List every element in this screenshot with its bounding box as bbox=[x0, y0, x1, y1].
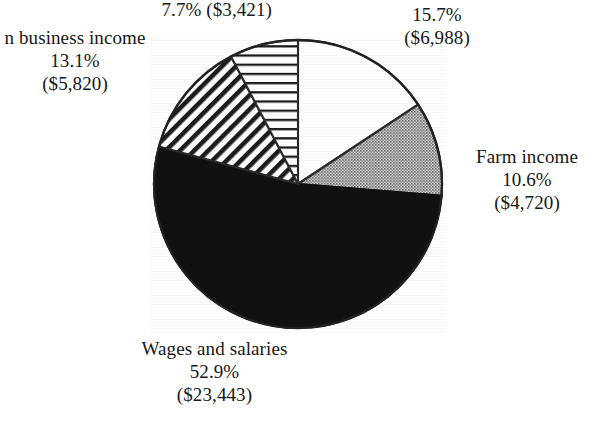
pie-svg bbox=[150, 36, 446, 332]
pie-chart-figure: 7.7% ($3,421) n business income 13.1% ($… bbox=[0, 0, 609, 424]
slice-label-horizontal-hatch: 7.7% ($3,421) bbox=[0, 0, 272, 21]
slice-label-wages-name: Wages and salaries bbox=[97, 337, 332, 360]
slice-label-nonfarm-business-income: n business income 13.1% ($5,820) bbox=[0, 26, 184, 95]
slice-label-farm-income-percent: 10.6% bbox=[452, 168, 602, 191]
slice-label-farm-income-amount: ($4,720) bbox=[452, 191, 602, 214]
slice-label-horizontal-hatch-line1: 7.7% ($3,421) bbox=[0, 0, 272, 21]
pie-chart-graphic bbox=[150, 36, 446, 332]
slice-label-nonfarm-business-percent: 13.1% bbox=[0, 49, 184, 72]
slice-label-nonfarm-business-name: n business income bbox=[0, 26, 184, 49]
slice-label-farm-income: Farm income 10.6% ($4,720) bbox=[452, 145, 602, 214]
slice-label-other-off-farm-amount: ($6,988) bbox=[312, 26, 562, 49]
slice-label-other-off-farm-percent: 15.7% bbox=[312, 3, 562, 26]
slice-label-wages-amount: ($23,443) bbox=[97, 383, 332, 406]
slice-label-wages-and-salaries: Wages and salaries 52.9% ($23,443) bbox=[97, 337, 332, 406]
slice-label-nonfarm-business-amount: ($5,820) bbox=[0, 72, 184, 95]
slice-label-farm-income-name: Farm income bbox=[452, 145, 602, 168]
slice-label-wages-percent: 52.9% bbox=[97, 360, 332, 383]
slice-label-other-off-farm-income: Other off-farm income 15.7% ($6,988) bbox=[312, 0, 562, 49]
